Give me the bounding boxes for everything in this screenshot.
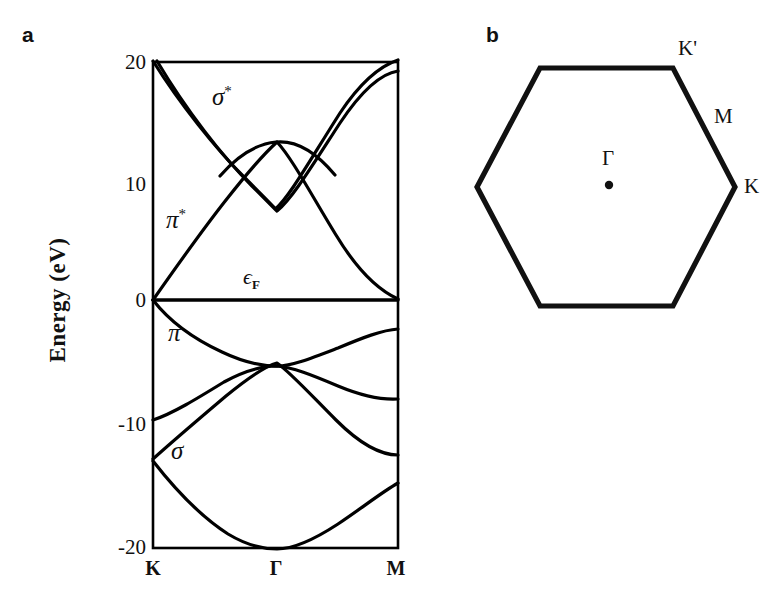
bz-label-k-prime: K': [678, 38, 697, 59]
fermi-epsilon: ϵ: [243, 264, 252, 289]
band-curve-sigma-3: [153, 461, 398, 549]
band-label-sigma-star-text: σ: [212, 83, 224, 110]
bz-label-k: K: [744, 176, 759, 197]
panel-a-band-structure: a Energy (eV) 20 10 0 -10 -20 K Γ M: [0, 0, 430, 611]
band-label-pi: π: [168, 320, 181, 345]
band-label-sigma-text: σ: [171, 437, 183, 464]
band-curve-pi: [153, 300, 398, 366]
fermi-subscript: F: [252, 277, 260, 292]
bz-label-m: M: [714, 106, 733, 127]
band-label-pi-star-asterisk: *: [179, 206, 187, 222]
band-curve-sigma-star-1: [153, 60, 398, 209]
band-curve-sigma-2: [153, 363, 398, 459]
bz-label-gamma: Γ: [602, 148, 614, 169]
figure-root: a Energy (eV) 20 10 0 -10 -20 K Γ M: [0, 0, 773, 611]
band-curve-pi-star: [153, 142, 398, 300]
band-label-pi-star: π*: [166, 207, 186, 232]
band-label-sigma-star: σ*: [212, 84, 232, 109]
band-label-pi-text: π: [168, 319, 181, 346]
panel-b-brillouin-zone: b K' M K Γ: [430, 0, 773, 611]
band-curve-sigma-1: [153, 366, 398, 420]
gamma-point-dot: [605, 181, 613, 189]
band-label-pi-star-text: π: [166, 206, 179, 233]
plot-frame: [153, 62, 398, 548]
band-label-sigma-star-asterisk: *: [224, 83, 232, 99]
band-label-sigma: σ: [171, 438, 183, 463]
brillouin-zone-hexagon: [430, 0, 773, 611]
fermi-level-label: ϵF: [243, 266, 260, 291]
